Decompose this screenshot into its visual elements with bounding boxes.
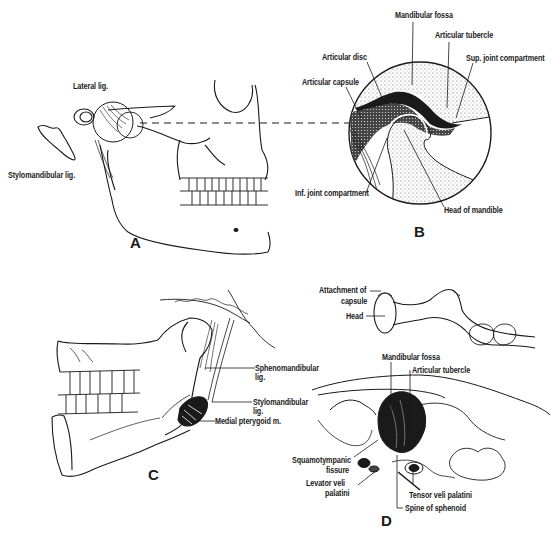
panel-letter-c: C bbox=[148, 466, 159, 483]
label-fissure: fissure bbox=[326, 466, 349, 475]
panel-d-skull-base bbox=[312, 362, 550, 508]
panel-b-joint-section bbox=[345, 22, 500, 210]
panel-d-condyle bbox=[366, 290, 535, 348]
label-sup-joint-compartment: Sup. joint compartment bbox=[466, 54, 545, 63]
label-sphenomandibular: Sphenomandibular bbox=[255, 364, 319, 373]
label-mandibular-fossa-b: Mandibular fossa bbox=[395, 11, 453, 20]
panel-a-skull bbox=[38, 80, 270, 254]
label-tensor-veli-palatini: Tensor veli palatini bbox=[409, 491, 472, 500]
label-lateral-lig: Lateral lig. bbox=[73, 82, 108, 91]
label-levator-veli: Levator veli bbox=[306, 479, 345, 488]
label-capsule: capsule bbox=[341, 297, 367, 306]
label-attachment-of: Attachment of bbox=[319, 286, 366, 295]
panel-c-medial-view bbox=[52, 290, 275, 476]
label-articular-capsule: Articular capsule bbox=[302, 78, 359, 87]
panel-letter-b: B bbox=[414, 223, 425, 240]
label-palatini-levator: palatini bbox=[325, 489, 350, 498]
label-mandibular-fossa-d: Mandibular fossa bbox=[382, 353, 440, 362]
panel-letter-a: A bbox=[130, 234, 141, 251]
label-stylomandibular-c: Stylomandibular bbox=[253, 398, 308, 407]
anatomy-illustration bbox=[0, 0, 555, 533]
panel-letter-d: D bbox=[381, 512, 392, 529]
label-squamotympanic: Squamotympanic bbox=[292, 456, 351, 465]
label-medial-pterygoid: Medial pterygoid m. bbox=[215, 417, 281, 426]
label-sphenomandibular-lig: lig. bbox=[255, 373, 265, 382]
label-articular-tubercle-b: Articular tubercle bbox=[435, 31, 493, 40]
label-stylomandibular-lig-a: Stylomandibular lig. bbox=[8, 171, 75, 180]
label-spine-of-sphenoid: Spine of sphenoid bbox=[405, 504, 466, 513]
label-inf-joint-compartment: Inf. joint compartment bbox=[295, 189, 369, 198]
label-head-of-mandible: Head of mandible bbox=[444, 206, 503, 215]
label-articular-disc: Articular disc bbox=[322, 53, 367, 62]
label-stylomandibular-c-lig: lig. bbox=[253, 407, 263, 416]
label-head: Head bbox=[346, 312, 363, 321]
label-articular-tubercle-d: Articular tubercle bbox=[412, 366, 470, 375]
